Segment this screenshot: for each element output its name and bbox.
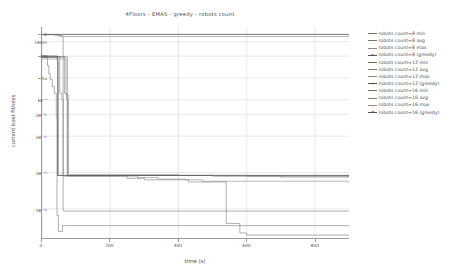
legend-swatch: +	[368, 52, 377, 57]
legend-item-label: robots count=12 min	[379, 60, 429, 65]
x-tick-mark	[315, 239, 316, 242]
series-line	[42, 57, 349, 178]
legend-swatch	[368, 95, 377, 100]
legend-item-label: robots count=8 (greedy)	[379, 52, 437, 57]
legend-swatch	[368, 60, 377, 65]
series-line	[42, 59, 349, 177]
x-tick-label: 800	[311, 243, 319, 248]
legend-item-label: robots count=8 avg	[379, 38, 426, 43]
legend-item[interactable]: robots count=16 min	[368, 87, 472, 94]
legend-swatch: +	[368, 110, 377, 115]
x-tick-mark	[178, 239, 179, 242]
series-line	[42, 58, 349, 176]
x-tick-mark	[109, 239, 110, 242]
legend-item[interactable]: robots count=8 min	[368, 30, 472, 37]
legend-item[interactable]: robots count=16 avg	[368, 94, 472, 101]
legend-item-label: robots count=16 min	[379, 88, 429, 93]
legend-swatch	[368, 67, 377, 72]
y-axis-label: current best fitness	[10, 56, 16, 186]
legend-item-label: robots count=16 avg	[379, 95, 429, 100]
plus-marker-icon: +	[371, 82, 374, 85]
legend-swatch	[368, 45, 377, 50]
legend-item[interactable]: +robots count=8 (greedy)	[368, 51, 472, 58]
legend-item-label: robots count=8 max	[379, 45, 427, 50]
series-line	[42, 35, 349, 37]
legend-item[interactable]: robots count=8 avg	[368, 37, 472, 44]
x-axis-label: time (s)	[41, 258, 349, 264]
legend-item[interactable]: robots count=12 avg	[368, 66, 472, 73]
plus-marker-icon: +	[371, 53, 374, 56]
x-tick-label: 200	[105, 243, 113, 248]
series-line	[42, 57, 349, 235]
legend-swatch	[368, 74, 377, 79]
legend-item[interactable]: robots count=12 max	[368, 73, 472, 80]
legend-item-label: robots count=12 (greedy)	[379, 81, 440, 86]
plot-area	[41, 27, 349, 239]
x-tick-mark	[41, 239, 42, 242]
series-line	[42, 35, 349, 211]
legend-item-label: robots count=12 max	[379, 74, 430, 79]
legend-item-label: robots count=16 max	[379, 102, 430, 107]
x-tick-label: 400	[174, 243, 182, 248]
legend-item[interactable]: +robots count=16 (greedy)	[368, 109, 472, 116]
legend-swatch	[368, 102, 377, 107]
legend-item-label: robots count=8 min	[379, 31, 426, 36]
legend-item[interactable]: robots count=8 max	[368, 44, 472, 51]
legend-item[interactable]: robots count=12 min	[368, 59, 472, 66]
series-layer	[42, 27, 349, 238]
series-line	[42, 56, 349, 231]
series-line	[42, 56, 349, 175]
plus-marker-icon: +	[371, 110, 374, 113]
legend-item-label: robots count=16 (greedy)	[379, 110, 440, 115]
chart-legend: robots count=8 minrobots count=8 avgrobo…	[368, 30, 472, 116]
legend-swatch	[368, 31, 377, 36]
chart-title: 4Floors - EMAS - greedy - robots count	[0, 11, 360, 17]
series-line	[42, 57, 349, 183]
x-tick-mark	[246, 239, 247, 242]
legend-swatch	[368, 38, 377, 43]
legend-item[interactable]: robots count=16 max	[368, 101, 472, 108]
x-tick-label: 600	[242, 243, 250, 248]
legend-swatch	[368, 88, 377, 93]
chart-figure: 4Floors - EMAS - greedy - robots count 1…	[0, 0, 472, 278]
series-line	[42, 56, 349, 175]
legend-swatch: +	[368, 81, 377, 86]
x-tick-label: 0	[40, 243, 43, 248]
legend-item[interactable]: +robots count=12 (greedy)	[368, 80, 472, 87]
legend-item-label: robots count=12 avg	[379, 67, 429, 72]
